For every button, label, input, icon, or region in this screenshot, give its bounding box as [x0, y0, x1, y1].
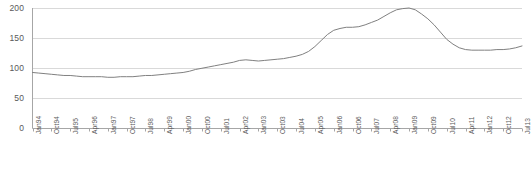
x-axis-tick-label: Jul04 [299, 117, 306, 133]
x-axis-tick-label: Jul95 [73, 117, 80, 133]
y-axis-tick-label: 0 [2, 124, 24, 133]
x-axis-tick-label: Oct03 [280, 116, 287, 134]
gridlines [33, 9, 523, 99]
x-axis-tick-label: Oct06 [356, 116, 363, 134]
y-axis-tick-label: 100 [2, 64, 24, 73]
x-axis-tick-label: Oct97 [130, 116, 137, 134]
x-axis-tick-label: Jan00 [186, 115, 193, 133]
x-axis-tick-label: Apr11 [469, 116, 476, 133]
x-axis-tick-label: Oct94 [54, 116, 61, 134]
x-axis-tick-label: Jul01 [224, 117, 231, 133]
x-axis-tick-label: Jul07 [374, 117, 381, 133]
x-axis-tick-label: Oct00 [205, 116, 212, 134]
x-axis-tick-label: Jan06 [337, 115, 344, 133]
x-axis-tick-label: Jul13 [525, 117, 532, 133]
data-series-line [33, 8, 523, 77]
y-axis-tick-label: 150 [2, 34, 24, 43]
x-axis-tick-label: Jan12 [487, 115, 494, 133]
x-axis-tick-label: Jul98 [148, 117, 155, 133]
y-axis-tick-label: 50 [2, 94, 24, 103]
x-axis-tick-label: Oct09 [431, 116, 438, 134]
y-axis-tick-label: 200 [2, 4, 24, 13]
x-axis-tick-label: Oct12 [506, 116, 513, 134]
x-axis-tick-label: Jul10 [450, 117, 457, 133]
x-axis-tick-label: Jan97 [111, 115, 118, 133]
x-axis-tick-label: Jan94 [36, 115, 43, 133]
x-axis-tick-label: Apr08 [393, 116, 400, 134]
x-axis-tick-label: Apr05 [318, 116, 325, 134]
x-axis-tick-label: Jan09 [412, 115, 419, 133]
x-axis-tick-label: Apr02 [243, 116, 250, 134]
x-axis-tick-label: Apr99 [167, 116, 174, 134]
x-axis-tick-label: Apr96 [92, 116, 99, 134]
x-axis-tick-label: Jan03 [261, 115, 268, 133]
